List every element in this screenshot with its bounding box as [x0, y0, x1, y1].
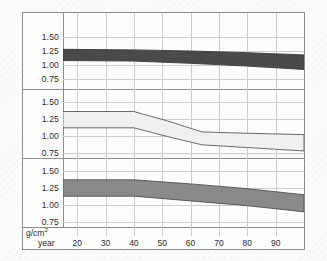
- y-tick-label: 1.50: [42, 32, 59, 42]
- x-tick-label: 70: [214, 238, 223, 248]
- vertical-gridline: [191, 227, 192, 236]
- plot-area-middle: [63, 89, 304, 158]
- y-tick-label: 1.50: [42, 166, 59, 176]
- unit-text: g/cm: [26, 228, 44, 238]
- y-tick-label: 1.25: [42, 183, 59, 193]
- y-axis-labels-middle: 1.50 1.25 1.00 0.75: [23, 89, 63, 158]
- y-tick-label: 0.75: [42, 74, 59, 84]
- x-tick-label: 80: [243, 238, 252, 248]
- reference-band: [63, 13, 304, 89]
- y-tick-label: 1.00: [42, 131, 59, 141]
- x-tick-label: 60: [186, 238, 195, 248]
- x-tick-label: 20: [72, 238, 81, 248]
- x-tick-label: 90: [271, 238, 280, 248]
- chart-panel-middle: 1.50 1.25 1.00 0.75: [23, 89, 304, 158]
- plot-area-bottom: [63, 158, 304, 227]
- chart-panel-top: 1.50 1.25 1.00 0.75: [23, 13, 304, 89]
- vertical-gridline: [106, 227, 107, 236]
- x-tick-label: 50: [158, 238, 167, 248]
- vertical-gridline: [219, 227, 220, 236]
- x-axis-title: year: [38, 238, 55, 248]
- y-tick-label: 1.25: [42, 114, 59, 124]
- plot-area-top: [63, 13, 304, 89]
- y-tick-label: 1.25: [42, 46, 59, 56]
- y-axis-labels-bottom: 1.50 1.25 1.00 0.75: [23, 158, 63, 227]
- y-tick-label: 0.75: [42, 148, 59, 158]
- chart-frame: 1.50 1.25 1.00 0.75 1.50 1.25 1.00 0.75 …: [22, 12, 305, 250]
- x-tick-label: 40: [129, 238, 138, 248]
- vertical-gridline: [162, 227, 163, 236]
- vertical-gridline: [247, 227, 248, 236]
- band-polygon: [63, 112, 304, 151]
- y-tick-label: 1.00: [42, 60, 59, 70]
- vertical-gridline: [276, 227, 277, 236]
- y-tick-label: 1.50: [42, 97, 59, 107]
- unit-superscript: 2: [44, 227, 47, 233]
- band-polygon: [63, 49, 304, 69]
- vertical-gridline: [77, 227, 78, 236]
- band-polygon: [63, 180, 304, 212]
- y-axis-labels-top: 1.50 1.25 1.00 0.75: [23, 13, 63, 89]
- x-tick-label: 30: [101, 238, 110, 248]
- y-axis-unit-label: g/cm2: [26, 228, 48, 238]
- y-tick-label: 1.00: [42, 200, 59, 210]
- y-tick-label: 0.75: [42, 217, 59, 227]
- reference-band: [63, 158, 304, 227]
- vertical-gridline: [134, 227, 135, 236]
- reference-band: [63, 89, 304, 158]
- x-axis-strip: g/cm2 year 2030405060708090: [23, 227, 304, 249]
- chart-panel-bottom: 1.50 1.25 1.00 0.75: [23, 158, 304, 227]
